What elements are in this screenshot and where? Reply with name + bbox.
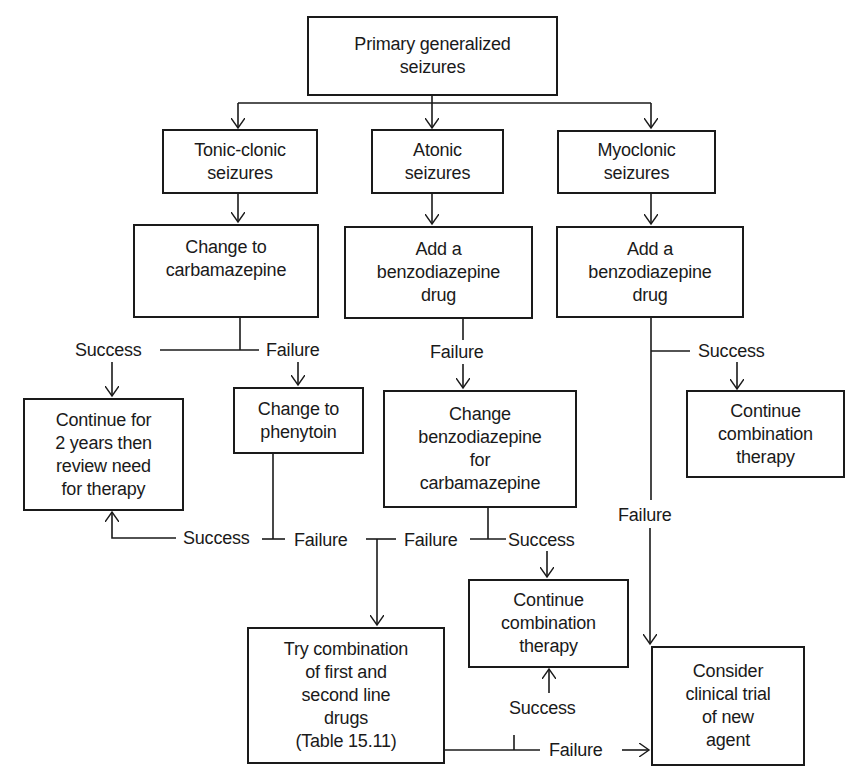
label-atonic-failure: Failure <box>430 342 484 362</box>
label-myo-success: Success <box>698 341 765 361</box>
node-continue-2-years: Continue for 2 years then review need fo… <box>23 398 184 511</box>
label-myo-failure: Failure <box>618 505 672 525</box>
connector-phenytoin-success-return <box>112 512 176 538</box>
node-label: Continue for 2 years then review need fo… <box>55 409 152 501</box>
node-label: Tonic-clonic seizures <box>194 139 286 185</box>
label-carb-failure: Failure <box>266 340 320 360</box>
label-carb-success: Success <box>75 340 142 360</box>
node-label: Consider clinical trial of new agent <box>685 660 770 752</box>
node-consider-clinical-trial: Consider clinical trial of new agent <box>651 646 805 766</box>
node-label: Continue combination therapy <box>501 589 596 658</box>
flowchart-canvas: Primary generalized seizures Tonic-cloni… <box>0 0 862 779</box>
label-combo-success: Success <box>509 698 576 718</box>
node-change-to-phenytoin: Change to phenytoin <box>233 387 364 454</box>
node-myoclonic-seizures: Myoclonic seizures <box>557 130 716 194</box>
node-change-to-carbamazepine: Change to carbamazepine <box>133 224 319 318</box>
node-label: Add a benzodiazepine drug <box>588 238 711 307</box>
node-label: Atonic seizures <box>405 139 470 185</box>
node-label: Change benzodiazepine for carbamazepine <box>418 403 541 495</box>
node-myoclonic-add-benzodiazepine: Add a benzodiazepine drug <box>556 226 744 318</box>
label-benzocarb-failure: Failure <box>404 530 458 550</box>
label-phenytoin-failure: Failure <box>294 530 348 550</box>
node-try-combination: Try combination of first and second line… <box>247 627 445 764</box>
label-benzocarb-success: Success <box>508 530 575 550</box>
node-tonic-clonic-seizures: Tonic-clonic seizures <box>162 129 318 194</box>
node-atonic-add-benzodiazepine: Add a benzodiazepine drug <box>344 226 533 319</box>
node-label: Myoclonic seizures <box>597 139 675 185</box>
node-label: Continue combination therapy <box>718 400 813 469</box>
node-label: Add a benzodiazepine drug <box>377 238 500 307</box>
node-primary-generalized-seizures: Primary generalized seizures <box>307 16 558 96</box>
node-label: Primary generalized seizures <box>354 33 510 79</box>
label-phenytoin-success: Success <box>183 528 250 548</box>
label-combo-failure: Failure <box>549 740 603 760</box>
node-label: Try combination of first and second line… <box>284 638 408 753</box>
node-label: Change to phenytoin <box>258 398 339 444</box>
node-continue-combination-right: Continue combination therapy <box>686 390 845 478</box>
node-continue-combination-middle: Continue combination therapy <box>468 579 629 668</box>
node-label: Change to carbamazepine <box>166 236 286 282</box>
node-atonic-seizures: Atonic seizures <box>371 129 504 194</box>
node-change-benzodiazepine-for-carbamazepine: Change benzodiazepine for carbamazepine <box>383 390 577 508</box>
